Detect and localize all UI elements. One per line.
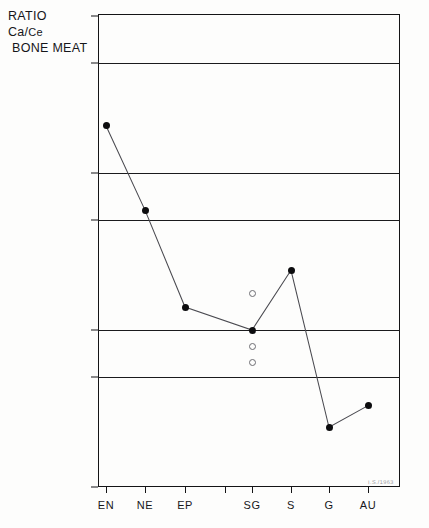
x-tick-mark (368, 486, 369, 493)
y-tick-mark (91, 16, 98, 17)
data-point-filled-g (326, 424, 333, 431)
chart-page: RATIO Ca/Ce BONE MEAT 100·050·010·05·01·… (0, 0, 429, 528)
x-tick-label-ep: EP (177, 499, 193, 511)
x-tick-mark (185, 486, 186, 493)
title-line-ratio: RATIO (6, 8, 98, 24)
data-point-open-sg (249, 290, 256, 297)
data-point-open-sg (249, 359, 256, 366)
x-tick-mark (291, 486, 292, 493)
y-tick-mark (91, 63, 98, 64)
x-tick-label-sg: SG (244, 499, 261, 511)
x-tick-label-en: EN (98, 499, 114, 511)
x-tick-mark (106, 486, 107, 493)
x-tick-mark (225, 486, 226, 493)
data-point-open-sg (249, 343, 256, 350)
series-line (98, 14, 400, 487)
y-tick-mark (91, 377, 98, 378)
data-point-filled-en (103, 122, 110, 129)
y-tick-mark (91, 220, 98, 221)
x-tick-label-g: G (324, 499, 333, 511)
y-tick-mark (91, 330, 98, 331)
plot-area (98, 14, 400, 487)
data-point-filled-sg (249, 327, 256, 334)
x-tick-label-s: S (287, 499, 295, 511)
data-point-filled-ne (142, 207, 149, 214)
x-tick-mark (145, 486, 146, 493)
data-point-filled-ep (182, 304, 189, 311)
title-ca-numerator: Ca/ (8, 25, 28, 39)
title-ce-denominator: Ce (28, 26, 43, 38)
x-tick-mark (252, 486, 253, 493)
x-tick-label-au: AU (360, 499, 376, 511)
chart-title-block: RATIO Ca/Ce BONE MEAT (6, 8, 98, 56)
x-tick-label-ne: NE (137, 499, 153, 511)
title-line-ca-ce: Ca/Ce (6, 24, 98, 40)
title-line-bone-meat: BONE MEAT (6, 40, 98, 56)
scan-annotation: I.S./1963 (368, 479, 394, 485)
y-tick-mark (91, 173, 98, 174)
data-point-filled-s (288, 267, 295, 274)
y-tick-mark (91, 487, 98, 488)
data-point-filled-au (365, 402, 372, 409)
x-tick-mark (329, 486, 330, 493)
